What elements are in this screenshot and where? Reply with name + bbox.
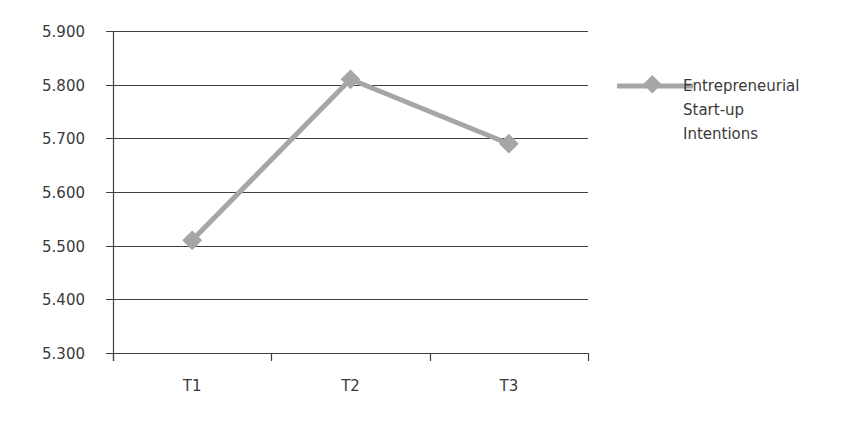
legend-line-3: Intentions: [683, 122, 863, 146]
legend-label: Entrepreneurial Start-up Intentions: [683, 74, 863, 146]
y-tick-label: 5.700: [42, 130, 85, 148]
x-tick-label: T2: [340, 377, 360, 395]
diamond-marker-icon: [499, 134, 519, 154]
series-line: [182, 69, 518, 250]
line-chart: 5.9005.8005.7005.6005.5005.4005.300 T1T2…: [0, 0, 865, 422]
y-axis-tick-labels: 5.9005.8005.7005.6005.5005.4005.300: [42, 23, 85, 363]
x-tick-label: T1: [182, 377, 202, 395]
legend-line-2: Start-up: [683, 98, 863, 122]
series-polyline: [192, 79, 509, 240]
y-tick-label: 5.500: [42, 238, 85, 256]
y-tick-label: 5.600: [42, 184, 85, 202]
y-tick-label: 5.300: [42, 345, 85, 363]
y-tick-label: 5.800: [42, 77, 85, 95]
y-tick-label: 5.400: [42, 291, 85, 309]
x-axis-tick-labels: T1T2T3: [182, 377, 518, 395]
y-tick-label: 5.900: [42, 23, 85, 41]
x-tick-label: T3: [498, 377, 518, 395]
legend-line-1: Entrepreneurial: [683, 74, 863, 98]
